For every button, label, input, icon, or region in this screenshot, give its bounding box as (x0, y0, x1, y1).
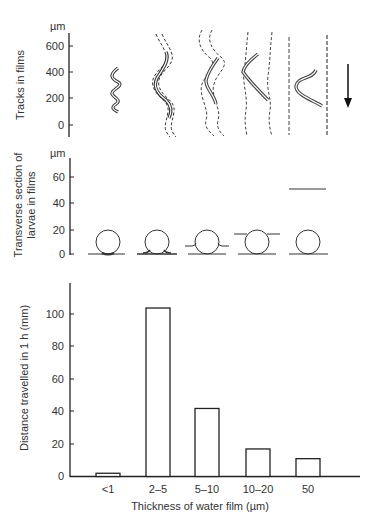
larva-section-5 (289, 189, 328, 254)
distance-ytick: 100 (46, 308, 64, 320)
distance-xtick: <1 (102, 483, 115, 495)
larva-section-1 (88, 230, 125, 255)
transverse-ylabel-line1: Transverse section of (12, 152, 24, 258)
larva-section-2 (137, 230, 177, 254)
distance-ytick: 60 (52, 373, 64, 385)
larva-section-4 (234, 230, 280, 254)
bars (96, 308, 320, 476)
tracks-ytick: 200 (46, 92, 64, 104)
figure-canvas: Tracks in films µm 600 400 200 0 (0, 0, 380, 524)
transverse-unit: µm (50, 147, 66, 159)
distance-xtick: 5–10 (195, 483, 219, 495)
transverse-ytick: 20 (53, 224, 65, 236)
larva-section-3 (185, 230, 229, 254)
transverse-ytick: 0 (59, 248, 65, 260)
distance-ytick: 80 (52, 340, 64, 352)
track-3 (199, 30, 224, 136)
distance-ytick: 20 (52, 438, 64, 450)
bar-1 (146, 308, 170, 476)
track-1 (112, 68, 120, 112)
tracks-ylabel: Tracks in films (14, 50, 26, 120)
transverse-ylabel-line2: larvae in films (25, 171, 37, 239)
tracks-unit: µm (50, 20, 66, 32)
tracks-ytick: 0 (58, 119, 64, 131)
tracks-ytick: 600 (46, 40, 64, 52)
bar-2 (195, 408, 219, 476)
track-2 (153, 34, 176, 137)
distance-xtick: 50 (302, 483, 314, 495)
bar-3 (246, 449, 270, 477)
transverse-panel: Transverse section of larvae in films µm… (12, 147, 328, 260)
bar-0 (96, 473, 120, 476)
track-4 (243, 32, 272, 136)
distance-ylabel: Distance travelled in 1 h (mm) (18, 305, 30, 451)
distance-bar-chart: Distance travelled in 1 h (mm) 100 80 60… (18, 283, 360, 512)
distance-ytick: 0 (58, 470, 64, 482)
distance-xtick: 10–20 (243, 483, 274, 495)
bar-4 (296, 459, 320, 477)
distance-ytick: 40 (52, 405, 64, 417)
distance-xtick: 2–5 (149, 483, 167, 495)
transverse-ytick: 40 (53, 197, 65, 209)
tracks-panel: Tracks in films µm 600 400 200 0 (14, 20, 352, 137)
transverse-ytick: 60 (53, 171, 65, 183)
tracks-ytick: 400 (46, 66, 64, 78)
distance-xlabel: Thickness of water film (µm) (131, 500, 269, 512)
track-5 (289, 35, 327, 135)
arrow-down-icon (344, 64, 352, 108)
